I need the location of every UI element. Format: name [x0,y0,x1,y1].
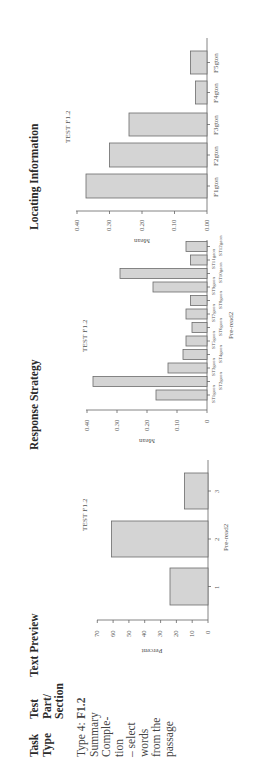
x-tick: F5gton [212,53,220,73]
y-tick: 0.20 [138,220,145,231]
y-tick: 0.30 [105,220,112,231]
y-tick: 0.10 [170,220,177,231]
y-tick: 0.00 [203,220,210,231]
x-tick: F1gton [212,177,220,197]
rotated-page: Task Type Test Part/ Section Text Previe… [0,0,258,767]
y-axis-label: Mean [134,237,150,245]
y-tick: 0.40 [73,220,80,231]
x-tick: F4gton [212,83,220,103]
x-tick: F3gton [212,115,220,135]
x-tick: F2gton [212,146,220,166]
